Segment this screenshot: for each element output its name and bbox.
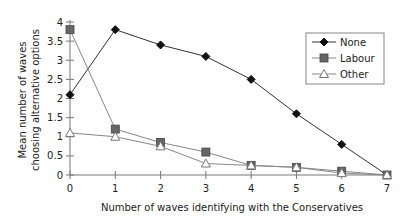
y-tick-label: 0 — [57, 170, 63, 181]
x-tick-label: 6 — [339, 183, 345, 194]
y-tick-label: 0.5 — [47, 150, 63, 161]
x-tick-label: 4 — [248, 183, 254, 194]
x-tick-label: 5 — [293, 183, 299, 194]
y-tick-label: 3.5 — [47, 36, 63, 47]
x-tick-label: 3 — [203, 183, 209, 194]
legend-label: None — [340, 37, 366, 48]
diamond-marker — [111, 26, 119, 34]
legend-label: Labour — [340, 53, 376, 64]
diamond-marker — [247, 75, 255, 83]
diamond-marker — [338, 140, 346, 148]
diamond-marker — [202, 52, 210, 60]
square-marker — [202, 148, 210, 156]
square-marker — [66, 26, 74, 34]
y-tick-label: 2.5 — [47, 74, 63, 85]
legend-label: Other — [340, 69, 369, 80]
triangle-marker — [66, 128, 75, 136]
x-tick-label: 7 — [384, 183, 390, 194]
series-other — [66, 128, 392, 178]
x-tick-label: 1 — [112, 183, 118, 194]
x-axis-title: Number of waves identifying with the Con… — [101, 202, 363, 213]
y-tick-label: 3 — [57, 55, 63, 66]
line-chart: 00.511.522.533.5401234567 NoneLabourOthe… — [0, 0, 404, 219]
x-tick-label: 2 — [157, 183, 163, 194]
diamond-marker — [292, 110, 300, 118]
y-tick-label: 1 — [57, 131, 63, 142]
y-axis-title: Mean number of waveschoosing alternative… — [17, 29, 41, 171]
diamond-marker — [157, 41, 165, 49]
diamond-marker — [66, 91, 74, 99]
square-marker — [320, 54, 328, 62]
y-tick-label: 4 — [57, 17, 63, 28]
x-tick-label: 0 — [67, 183, 73, 194]
y-tick-label: 1.5 — [47, 112, 63, 123]
y-axis-title-line: choosing alternative options — [30, 29, 41, 171]
y-axis-title-line: Mean number of waves — [17, 41, 28, 158]
y-tick-label: 2 — [57, 93, 63, 104]
legend-item-labour: Labour — [312, 53, 376, 64]
triangle-marker — [201, 159, 210, 167]
legend: NoneLabourOther — [306, 33, 384, 84]
